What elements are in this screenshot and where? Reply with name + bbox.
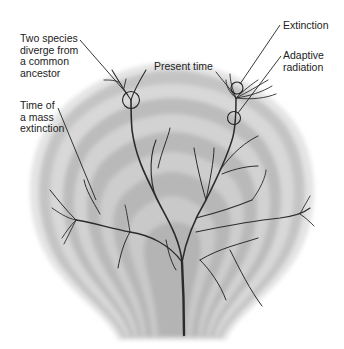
label-adaptive-radiation: Adaptive radiation	[283, 50, 324, 73]
label-extinction: Extinction	[283, 20, 329, 32]
label-two-species-diverge: Two species diverge from a common ancest…	[20, 33, 78, 79]
time-rings	[30, 62, 314, 340]
evolution-diagram: Two species diverge from a common ancest…	[0, 0, 344, 349]
extinction-leader	[240, 25, 280, 84]
label-present-time: Present time	[154, 61, 213, 73]
label-time-of-mass-extinction: Time of a mass extinction	[20, 100, 64, 135]
